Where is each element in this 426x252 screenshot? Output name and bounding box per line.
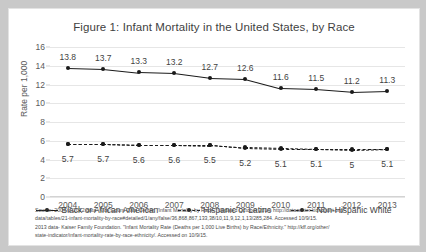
y-tick-label: 8 [40, 117, 45, 127]
chart-title: Figure 1: Infant Mortality in the United… [9, 21, 419, 33]
gridline [50, 47, 405, 48]
series-line-segment [316, 149, 352, 150]
chart-page: Figure 1: Infant Mortality in the United… [0, 0, 426, 252]
data-label: 11.5 [308, 73, 324, 83]
data-point [101, 67, 105, 71]
y-tick-label: 6 [40, 136, 45, 146]
data-label: 5.2 [239, 158, 251, 168]
data-point [385, 89, 389, 93]
y-tick-label: 16 [36, 42, 45, 52]
data-point [208, 76, 212, 80]
y-axis-label: Rate per 1,000 [19, 61, 29, 117]
data-point [243, 77, 247, 81]
series-line-segment [281, 88, 317, 90]
gridline [50, 178, 405, 179]
source-line-2: data/tables/21-infant-mortality-by-race#… [35, 214, 407, 222]
y-tick-mark [46, 197, 50, 198]
y-tick-mark [46, 159, 50, 160]
series-line-segment [352, 91, 388, 93]
data-point [350, 90, 354, 94]
series-line-segment [139, 145, 175, 146]
data-label: 11.6 [273, 72, 289, 82]
data-label: 5.7 [62, 154, 74, 164]
series-line-segment [210, 145, 246, 149]
data-label: 5.6 [168, 155, 180, 165]
y-tick-mark [46, 65, 50, 66]
data-label: 5.5 [204, 155, 216, 165]
data-label: 13.2 [166, 57, 183, 67]
data-label: 5.6 [133, 155, 145, 165]
data-point [385, 147, 389, 151]
data-point [101, 142, 105, 146]
data-point [314, 147, 318, 151]
data-label: 5.1 [310, 159, 322, 169]
data-label: 5.1 [381, 159, 393, 169]
data-point [243, 145, 247, 149]
data-label: 12.6 [237, 63, 254, 73]
data-label: 13.8 [59, 52, 76, 62]
y-tick-mark [46, 84, 50, 85]
data-label: 13.3 [130, 56, 147, 66]
series-line-segment [210, 78, 246, 80]
series-line-segment [68, 144, 104, 145]
source-line-1: Source: 2004 to 2012 data- Kids Count Da… [35, 206, 407, 214]
gridline [50, 197, 405, 198]
data-label: 12.7 [201, 62, 218, 72]
y-tick-label: 2 [40, 173, 45, 183]
data-point [314, 87, 318, 91]
series-line-segment [316, 89, 352, 93]
data-point [279, 86, 283, 90]
series-line-segment [174, 73, 210, 79]
data-point [279, 146, 283, 150]
series-line-segment [352, 149, 388, 150]
series-line-segment [103, 69, 139, 74]
gridline [50, 103, 405, 104]
plot-area: 0246810121416200420052006200720082009201… [50, 47, 405, 197]
source-line-3: 2013 data- Kaiser Family Foundation. "In… [35, 223, 407, 231]
source-note: Source: 2004 to 2012 data- Kids Count Da… [35, 206, 407, 240]
data-point [66, 142, 70, 146]
data-label: 5.1 [275, 159, 287, 169]
series-line-segment [68, 68, 104, 70]
y-tick-mark [46, 103, 50, 104]
series-line-segment [174, 145, 210, 146]
data-label: 13.7 [95, 53, 112, 63]
data-point [137, 143, 141, 147]
data-label: 11.2 [344, 76, 360, 86]
y-tick-mark [46, 47, 50, 48]
data-point [172, 143, 176, 147]
series-line-segment [103, 144, 139, 146]
data-point [137, 70, 141, 74]
data-point [350, 147, 354, 151]
data-point [208, 143, 212, 147]
chart-panel: Figure 1: Infant Mortality in the United… [8, 8, 420, 246]
y-tick-mark [46, 122, 50, 123]
y-tick-label: 10 [36, 98, 45, 108]
data-label: 5.7 [97, 154, 109, 164]
y-tick-label: 0 [40, 192, 45, 202]
data-label: 11.3 [379, 75, 395, 85]
series-line-segment [139, 72, 175, 74]
data-point [172, 71, 176, 75]
gridline [50, 122, 405, 123]
y-tick-mark [46, 178, 50, 179]
data-point [66, 66, 70, 70]
source-line-4: state-indicator/infant-mortality-rate-by… [35, 231, 407, 239]
y-tick-mark [46, 140, 50, 141]
y-tick-label: 14 [36, 61, 45, 71]
y-tick-label: 4 [40, 155, 45, 165]
data-label: 5 [349, 160, 354, 170]
y-tick-label: 12 [36, 80, 45, 90]
